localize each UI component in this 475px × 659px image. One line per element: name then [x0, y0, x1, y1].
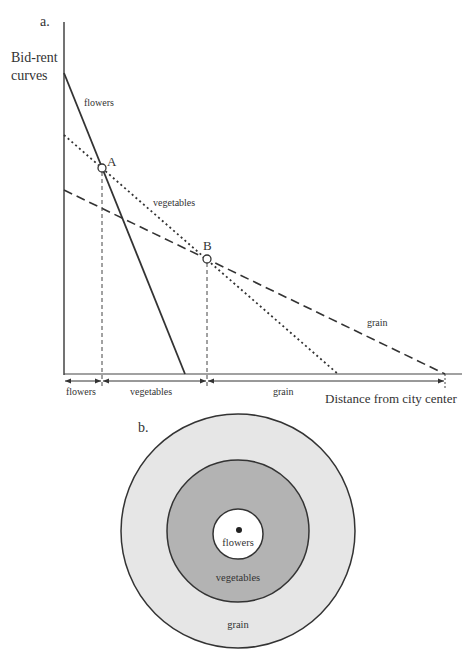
- vegetables-ring-label: vegetables: [216, 572, 260, 583]
- grain-curve: [64, 190, 445, 374]
- city-center-dot: [236, 527, 242, 533]
- point-a-label: A: [107, 154, 117, 169]
- x-axis-label: Distance from city center: [325, 391, 457, 406]
- vegetables-curve-label: vegetables: [153, 197, 195, 208]
- panel-a-bid-rent-chart: a. Bid-rent curves flowers vegetables gr…: [11, 14, 462, 406]
- point-b-marker: [203, 255, 211, 263]
- flowers-ring-label: flowers: [222, 537, 254, 548]
- y-axis-label-line1: Bid-rent: [11, 50, 58, 65]
- y-axis-label-line2: curves: [11, 68, 48, 83]
- panel-b-concentric-zones: b. flowers vegetables grain: [121, 414, 355, 648]
- panel-b-label: b.: [138, 420, 149, 435]
- flowers-zone-label: flowers: [66, 386, 96, 397]
- point-b-label: B: [203, 238, 212, 253]
- figure: a. Bid-rent curves flowers vegetables gr…: [0, 0, 475, 659]
- grain-zone-label: grain: [273, 386, 294, 397]
- grain-ring-label: grain: [227, 619, 249, 630]
- point-a-marker: [98, 164, 106, 172]
- vegetables-zone-label: vegetables: [130, 386, 172, 397]
- flowers-curve: [64, 73, 185, 374]
- flowers-ring: [213, 509, 263, 559]
- panel-a-label: a.: [40, 14, 50, 29]
- flowers-curve-label: flowers: [84, 97, 114, 108]
- grain-curve-label: grain: [367, 317, 388, 328]
